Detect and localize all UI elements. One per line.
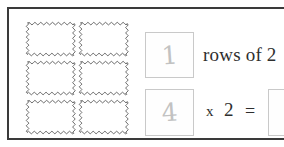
postage-stamp-icon [25,98,77,136]
postage-stamp-icon [25,59,77,97]
worksheet-canvas: 1 rows of 2 4 x 2 = [0,0,284,147]
multiplication-symbol: x [206,103,214,120]
result-answer-box[interactable] [268,89,284,136]
postage-stamp-icon [78,98,130,136]
rows-answer-box[interactable]: 1 [145,32,194,78]
postage-stamp-icon [78,59,130,97]
factor-answer-handwriting: 4 [144,88,194,136]
equals-symbol: = [245,101,255,122]
postage-stamp-icon [78,20,130,58]
second-factor: 2 [224,99,234,121]
postage-stamp-icon [25,20,77,58]
factor-answer-box[interactable]: 4 [145,89,194,136]
result-answer-handwriting [267,88,284,136]
rows-answer-handwriting: 1 [145,31,195,78]
stamp-array [25,20,129,134]
rows-of-label: rows of 2 [203,44,277,66]
